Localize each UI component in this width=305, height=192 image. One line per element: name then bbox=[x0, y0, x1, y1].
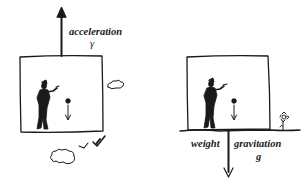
falling-ball-icon bbox=[232, 99, 237, 120]
cloud-icon bbox=[108, 80, 124, 89]
falling-ball-icon bbox=[66, 99, 71, 120]
gravitation-label: gravitation bbox=[234, 139, 281, 150]
weight-label: weight bbox=[191, 139, 220, 150]
right-panel bbox=[180, 56, 300, 177]
person-icon bbox=[204, 78, 227, 128]
acceleration-arrow-icon bbox=[57, 7, 66, 56]
flower-icon bbox=[280, 112, 289, 130]
gravity-arrow-icon bbox=[224, 131, 233, 177]
room-box bbox=[187, 56, 270, 130]
bird-icon bbox=[79, 143, 88, 148]
equivalence-principle-illustration bbox=[0, 0, 305, 192]
elevator-box bbox=[20, 56, 103, 133]
gravitation-symbol: g bbox=[256, 152, 261, 163]
ground-line bbox=[180, 130, 300, 131]
cloud-icon bbox=[51, 149, 75, 164]
acceleration-symbol: γ bbox=[90, 39, 94, 50]
person-icon bbox=[37, 80, 59, 129]
acceleration-label: acceleration bbox=[69, 27, 122, 38]
